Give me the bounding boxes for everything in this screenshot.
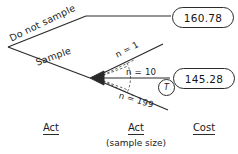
column-heading-act: Act xyxy=(18,122,84,135)
column-heading-cost: Cost xyxy=(178,122,230,135)
column-heading-sample-size-sub: (sample size) xyxy=(96,138,176,148)
circled-t-marker: T xyxy=(158,79,175,96)
column-heading-act-sample-size: Act (sample size) xyxy=(96,122,176,148)
column-heading-act-text: Act xyxy=(43,122,59,135)
fan-label-n-10: n = 10 xyxy=(126,67,156,77)
cost-value-sample: 145.28 xyxy=(173,68,235,89)
column-heading-cost-text: Cost xyxy=(193,122,215,135)
column-heading-act-sample-size-text: Act xyxy=(128,122,144,135)
decision-tree-figure: Do not sample Sample n = 1 n = 10 n = 19… xyxy=(0,0,238,154)
cost-value-do-not-sample: 160.78 xyxy=(172,7,234,28)
